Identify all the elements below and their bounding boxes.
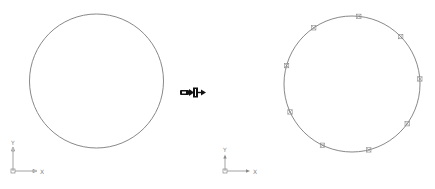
drawing-svg: X Y X Y [0,0,435,189]
y-axis-label: Y [10,139,15,146]
point-marker [320,143,324,147]
point-marker [398,34,402,38]
ucs-icon-left: X Y [10,139,44,175]
point-marker [312,26,316,30]
x-axis-label: X [40,168,44,175]
conversion-arrow-icon [180,88,206,98]
ucs-icon-right: X Y [222,146,257,175]
drawing-canvas: X Y X Y [0,0,435,189]
divided-circle [284,16,420,152]
point-marker [288,110,292,114]
x-axis-label: X [253,168,257,175]
y-axis-label: Y [222,146,227,153]
original-circle [30,14,164,148]
point-marker [405,122,409,126]
